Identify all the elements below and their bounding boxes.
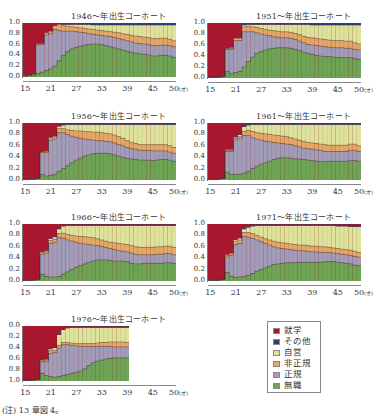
x-tick-label: 21: [46, 84, 56, 93]
legend-item-non-regular: 非正規: [273, 358, 311, 369]
plot-axes: [22, 224, 177, 282]
legend-item-unemployed: 無職: [273, 380, 302, 391]
x-tick-label: 27: [71, 84, 81, 93]
x-unit-label: (才): [179, 290, 188, 296]
y-tick-label: 0.6: [2, 141, 20, 149]
y-tick-label: 1.0: [187, 118, 205, 126]
x-axis-line: [23, 385, 176, 386]
y-tick-label: 0.4: [2, 50, 20, 58]
y-tick-label: 1.0: [2, 219, 20, 227]
y-tick-label: 0.6: [2, 354, 20, 362]
x-tick-label: 33: [282, 85, 292, 94]
y-tick-label: 0.2: [2, 332, 20, 340]
x-axis-line: [23, 81, 176, 82]
y-tick-label: 0.0: [2, 321, 20, 329]
x-tick-label: 45: [148, 288, 158, 297]
x-axis-line: [23, 184, 176, 185]
y-tick-label: 0.4: [2, 343, 20, 351]
y-tick-label: 0.8: [2, 230, 20, 238]
x-axis-line: [208, 285, 361, 286]
legend-item-schooling: 就学: [273, 325, 302, 336]
legend-swatch-regular: [273, 372, 280, 378]
y-tick-label: 0.2: [2, 61, 20, 69]
chart-title: 1966～年出生コーホート: [71, 211, 166, 222]
x-tick-label: 33: [282, 288, 292, 297]
x-tick-label: 39: [122, 187, 132, 196]
footnote: (注) 13 章図 4。: [2, 404, 63, 415]
legend-swatch-non-regular: [273, 361, 280, 367]
x-tick-label: 45: [148, 388, 158, 397]
x-tick-label: 21: [231, 187, 241, 196]
x-tick-label: 50(才): [354, 187, 373, 196]
x-tick-label: 27: [256, 187, 266, 196]
x-tick-label: 39: [307, 288, 317, 297]
y-tick-label: 1.0: [2, 18, 20, 26]
x-tick-label: 39: [307, 187, 317, 196]
x-tick-label: 15: [205, 85, 215, 94]
y-tick-label: 0.6: [2, 40, 20, 48]
x-unit-label: (才): [364, 189, 373, 195]
x-tick-label: 50(才): [169, 388, 188, 397]
x-tick-label: 45: [148, 187, 158, 196]
x-tick-label: 50(才): [169, 288, 188, 297]
y-tick-label: 0.0: [187, 175, 205, 183]
x-axis-line: [208, 184, 361, 185]
plot-axes: [22, 123, 177, 181]
plot-axes: [207, 23, 362, 79]
y-tick-label: 0.8: [2, 365, 20, 373]
y-tick-label: 1.0: [187, 219, 205, 227]
x-tick-label: 50(才): [354, 288, 373, 297]
x-tick-label: 27: [71, 187, 81, 196]
x-tick-label: 39: [307, 85, 317, 94]
legend-swatch-schooling: [273, 328, 280, 334]
x-tick-label: 15: [20, 187, 30, 196]
x-tick-label: 21: [46, 187, 56, 196]
chart-title: 1956～年出生コーホート: [71, 110, 166, 121]
chart-title: 1971～年出生コーホート: [256, 211, 351, 222]
y-tick-label: 1.0: [2, 376, 20, 384]
x-axis-line: [23, 285, 176, 286]
x-tick-label: 39: [122, 84, 132, 93]
y-tick-label: 0.4: [2, 152, 20, 160]
y-tick-label: 0.2: [2, 265, 20, 273]
y-tick-label: 0.8: [187, 29, 205, 37]
x-tick-label: 15: [20, 288, 30, 297]
x-tick-label: 21: [46, 288, 56, 297]
y-tick-label: 0.2: [2, 164, 20, 172]
legend-item-regular: 正規: [273, 369, 302, 380]
legend-swatch-unemployed: [273, 383, 280, 389]
y-tick-label: 0.2: [187, 164, 205, 172]
chart-title: 1946～年出生コーホート: [71, 10, 166, 21]
x-tick-label: 50(才): [354, 85, 373, 94]
x-tick-label: 33: [97, 288, 107, 297]
y-tick-label: 0.0: [2, 175, 20, 183]
y-tick-label: 0.0: [2, 72, 20, 80]
x-tick-label: 33: [97, 187, 107, 196]
x-axis-line: [208, 82, 361, 83]
x-unit-label: (才): [364, 87, 373, 93]
chart-title: 1951～年出生コーホート: [256, 10, 351, 21]
x-unit-label: (才): [364, 290, 373, 296]
x-tick-label: 21: [231, 85, 241, 94]
y-tick-label: 1.0: [187, 18, 205, 26]
x-tick-label: 15: [20, 388, 30, 397]
chart-title: 1976～年出生コーホート: [71, 313, 166, 324]
x-tick-label: 15: [20, 84, 30, 93]
plot-axes: [207, 224, 362, 282]
x-tick-label: 45: [148, 84, 158, 93]
y-tick-label: 0.4: [187, 152, 205, 160]
y-tick-label: 0.0: [2, 276, 20, 284]
chart-title: 1961～年出生コーホート: [256, 110, 351, 121]
x-tick-label: 27: [71, 288, 81, 297]
x-tick-label: 33: [97, 388, 107, 397]
x-tick-label: 21: [231, 288, 241, 297]
plot-axes: [207, 123, 362, 181]
y-tick-label: 0.2: [187, 62, 205, 70]
y-tick-label: 0.4: [187, 253, 205, 261]
legend-item-other: その他: [273, 336, 311, 347]
legend-swatch-self-employed: [273, 350, 280, 356]
y-tick-label: 0.8: [2, 29, 20, 37]
legend-swatch-other: [273, 339, 280, 345]
y-tick-label: 0.6: [187, 242, 205, 250]
x-tick-label: 45: [333, 288, 343, 297]
